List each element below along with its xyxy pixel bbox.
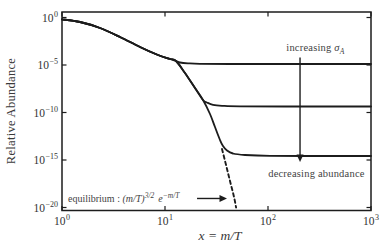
y-tick-label: 100 [0, 10, 58, 26]
increasing-sigma-arrowhead [297, 154, 304, 162]
annotation-equilibrium-formula: equilibrium : (m/T)3/2e−m/T [68, 193, 180, 204]
equilibrium-prefix: equilibrium : [68, 193, 122, 204]
x-tick-label: 103 [349, 213, 391, 229]
x-tick-label: 102 [246, 213, 290, 229]
y-tick-label: 10−5 [0, 57, 58, 73]
equilibrium-pointer-arrowhead [220, 195, 228, 202]
x-axis-label: x = m/T [122, 228, 318, 244]
x-tick-label: 100 [40, 213, 84, 229]
annotation-decreasing-abundance: decreasing abundance [268, 168, 364, 179]
y-tick-label: 10−10 [0, 105, 58, 121]
equilibrium-exponent: 3/2 [145, 190, 155, 199]
curve-freezeout-largest-sigma [62, 19, 371, 156]
y-tick-label: 10−15 [0, 152, 58, 168]
equilibrium-e-exponent: −m/T [163, 190, 180, 199]
annotation-increasing-text: increasing [286, 41, 334, 52]
relic-abundance-figure: Relative Abundance x = m/T increasing σA… [0, 0, 391, 251]
sigma-subscript: A [340, 47, 345, 56]
x-tick-label: 101 [143, 213, 187, 229]
annotation-increasing-sigma: increasing σA [286, 41, 344, 52]
equilibrium-base: (m/T) [122, 193, 144, 204]
